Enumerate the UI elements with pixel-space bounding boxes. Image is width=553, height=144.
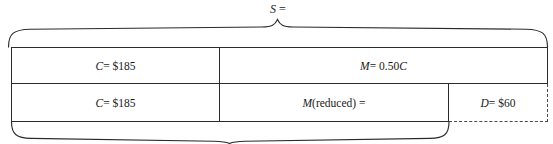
discount-cell-row2: D = $60: [449, 84, 548, 122]
reduced-markup-cell-row2: M(reduced) =: [220, 84, 449, 122]
bottom-brace-icon: [12, 122, 450, 144]
reduced-markup-variable-row2: M: [302, 96, 312, 110]
markup-cell-row1: M = 0.50C: [220, 47, 548, 84]
markup-discount-bar-diagram: S = C = $185 M = 0.50C C = $185 M(reduce…: [0, 0, 553, 144]
cost-variable-row2: C: [95, 96, 103, 110]
discount-variable-row2: D: [481, 96, 489, 110]
top-brace-label-rest: =: [276, 2, 286, 16]
table-row: C = $185 M = 0.50C: [11, 47, 548, 84]
table-row: C = $185 M(reduced) = D = $60: [11, 84, 548, 122]
cost-cell-row2: C = $185: [11, 84, 220, 122]
top-brace-label: S =: [248, 1, 308, 17]
top-brace-icon: [9, 20, 548, 48]
price-breakdown-table: C = $185 M = 0.50C C = $185 M(reduced) =…: [11, 47, 548, 122]
markup-variable-row1: M: [360, 59, 370, 73]
cost-variable-row1: C: [95, 59, 103, 73]
markup-cost-variable-row1: C: [399, 59, 407, 73]
cost-value-row1: = $185: [103, 59, 135, 73]
cost-cell-row1: C = $185: [11, 47, 220, 84]
markup-value-row1: = 0.50: [370, 59, 400, 73]
reduced-markup-value-row2: (reduced) =: [312, 96, 365, 110]
cost-value-row2: = $185: [103, 96, 135, 110]
discount-value-row2: = $60: [489, 96, 516, 110]
